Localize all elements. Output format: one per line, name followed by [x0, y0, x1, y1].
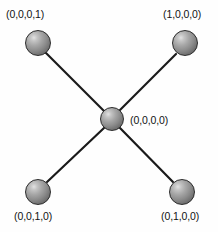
node-bottom-right: [169, 179, 195, 205]
node-label-bottom-left: (0,0,1,0): [14, 210, 52, 222]
node-label-bottom-right: (0,1,0,0): [161, 210, 199, 222]
node-center: [100, 107, 124, 131]
node-top-left: [25, 30, 51, 56]
edge-bottom-left-to-center: [47, 128, 104, 182]
node-top-right: [172, 30, 198, 56]
node-label-center: (0,0,0,0): [130, 114, 168, 126]
node-label-top-right: (1,0,0,0): [163, 8, 201, 20]
edge-top-right-to-center: [120, 54, 176, 110]
edge-bottom-right-to-center: [120, 128, 173, 182]
node-link-diagram: (0,0,0,1)(1,0,0,0)(0,0,0,0)(0,0,1,0)(0,1…: [0, 0, 218, 232]
node-bottom-left: [25, 179, 51, 205]
node-label-top-left: (0,0,0,1): [6, 8, 44, 20]
edge-top-left-to-center: [46, 53, 104, 111]
